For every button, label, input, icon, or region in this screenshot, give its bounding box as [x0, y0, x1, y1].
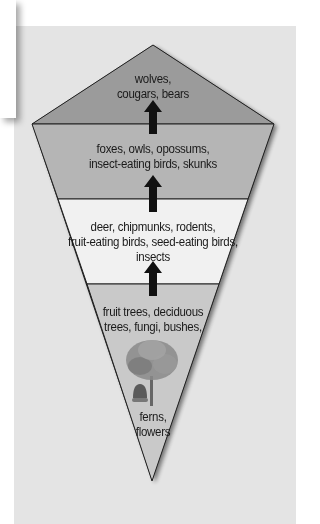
tier-producers-bottom-line-1: ferns, — [125, 410, 180, 425]
tier-producers-line-1: fruit trees, deciduous — [98, 305, 208, 320]
tier-top-label: wolves, cougars, bears — [98, 72, 208, 102]
tier-secondary-line-2: insect-eating birds, skunks — [70, 157, 236, 172]
tier-secondary-line-1: foxes, owls, opossums, — [70, 142, 236, 157]
tier-primary-line-2: fruit-eating birds, seed-eating birds, — [66, 235, 241, 250]
tier-producers-bottom-line-2: flowers — [125, 425, 180, 440]
tier-top-line-2: cougars, bears — [98, 87, 208, 102]
tier-secondary-label: foxes, owls, opossums, insect-eating bir… — [70, 142, 236, 172]
tier-primary-line-1: deer, chipmunks, rodents, — [66, 220, 241, 235]
tier-primary-label: deer, chipmunks, rodents, fruit-eating b… — [66, 220, 241, 265]
tier-primary-line-3: insects — [66, 250, 241, 265]
tier-producers-bottom-label: ferns, flowers — [125, 410, 180, 440]
tier-top-line-1: wolves, — [98, 72, 208, 87]
tier-producers-label: fruit trees, deciduous trees, fungi, bus… — [98, 305, 208, 335]
tier-producers-line-2: trees, fungi, bushes, — [98, 320, 208, 335]
